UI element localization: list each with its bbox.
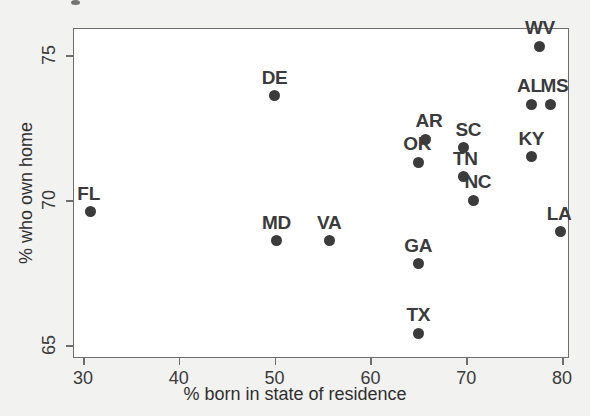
- data-point-md: [271, 235, 282, 246]
- data-point-label-tn: TN: [453, 149, 478, 168]
- scatter-plot-figure: FLDEMDVAGATXOKARSCTNNCKYALMSWVLA 3040506…: [0, 0, 590, 416]
- data-point-ms: [545, 99, 556, 110]
- data-point-va: [324, 235, 335, 246]
- x-axis-title: % born in state of residence: [183, 385, 406, 403]
- data-point-label-wv: WV: [525, 18, 555, 37]
- y-tick-label-65: 65: [40, 335, 58, 355]
- data-point-label-md: MD: [262, 213, 291, 232]
- scan-artifact-speck: [71, 0, 80, 5]
- data-point-label-la: LA: [547, 204, 572, 223]
- y-tick-mark-65: [66, 345, 73, 347]
- data-point-label-nc: NC: [464, 172, 491, 191]
- data-point-tx: [413, 328, 424, 339]
- y-tick-label-70: 70: [40, 190, 58, 210]
- data-point-ky: [526, 151, 537, 162]
- data-point-al: [526, 99, 537, 110]
- data-point-label-al: AL: [517, 76, 542, 95]
- data-point-label-de: DE: [262, 68, 288, 87]
- x-tick-mark-80: [562, 358, 564, 365]
- y-axis-title: % who own home: [17, 122, 35, 264]
- x-tick-mark-60: [370, 358, 372, 365]
- data-point-label-ms: MS: [541, 76, 569, 95]
- data-point-la: [555, 226, 566, 237]
- x-tick-mark-30: [83, 358, 85, 365]
- data-point-label-sc: SC: [455, 120, 481, 139]
- data-point-label-ar: AR: [416, 111, 443, 130]
- y-tick-mark-70: [66, 200, 73, 202]
- y-tick-mark-75: [66, 55, 73, 57]
- data-point-label-fl: FL: [77, 184, 100, 203]
- data-point-label-ky: KY: [518, 129, 544, 148]
- data-point-label-tx: TX: [406, 305, 430, 324]
- data-point-ga: [413, 258, 424, 269]
- data-point-fl: [85, 206, 96, 217]
- x-tick-mark-50: [275, 358, 277, 365]
- data-point-wv: [534, 41, 545, 52]
- plot-data-area: FLDEMDVAGATXOKARSCTNNCKYALMSWVLA: [73, 28, 569, 358]
- data-point-label-ga: GA: [404, 236, 432, 255]
- data-point-nc: [468, 195, 479, 206]
- x-tick-mark-70: [466, 358, 468, 365]
- x-tick-label-80: 80: [552, 369, 572, 387]
- y-tick-label-75: 75: [40, 45, 58, 65]
- data-point-ok: [413, 157, 424, 168]
- data-point-de: [269, 90, 280, 101]
- data-point-label-va: VA: [317, 213, 341, 232]
- x-tick-label-30: 30: [73, 369, 93, 387]
- x-tick-label-70: 70: [456, 369, 476, 387]
- x-tick-mark-40: [179, 358, 181, 365]
